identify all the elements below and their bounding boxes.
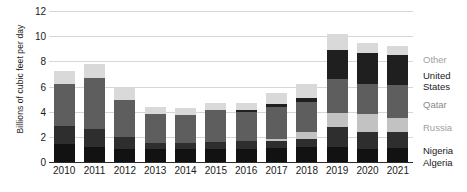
gridline-0 (49, 162, 413, 163)
bar-segment-russia[interactable] (327, 113, 348, 127)
bar-2010[interactable] (54, 71, 75, 162)
bar-segment-algeria[interactable] (266, 148, 287, 162)
bar-2020[interactable] (357, 43, 378, 163)
bar-2013[interactable] (145, 107, 166, 162)
legend-item-russia[interactable]: Russia (423, 123, 452, 134)
bar-segment-nigeria[interactable] (357, 132, 378, 150)
bar-segment-qatar[interactable] (84, 78, 105, 130)
bar-segment-algeria[interactable] (114, 149, 135, 162)
bar-segment-nigeria[interactable] (387, 132, 408, 148)
legend-item-algeria[interactable]: Algeria (423, 158, 453, 169)
bar-segment-algeria[interactable] (54, 144, 75, 162)
bar-segment-qatar[interactable] (357, 84, 378, 114)
legend-item-united-states[interactable]: United States (423, 71, 450, 92)
bar-segment-other[interactable] (205, 103, 226, 111)
bar-segment-qatar[interactable] (145, 114, 166, 143)
bar-segment-qatar[interactable] (54, 84, 75, 126)
stacked-bar-chart: Billions of cubic feet per day 024681012… (0, 0, 467, 192)
bar-segment-other[interactable] (54, 71, 75, 84)
bar-segment-other[interactable] (145, 107, 166, 115)
bar-segment-qatar[interactable] (175, 115, 196, 143)
bar-segment-algeria[interactable] (296, 147, 317, 162)
bar-segment-qatar[interactable] (114, 100, 135, 136)
bar-segment-other[interactable] (114, 88, 135, 101)
gridline-10 (49, 36, 413, 37)
y-tick-label-0: 0 (6, 157, 46, 168)
bar-segment-other[interactable] (296, 84, 317, 98)
bar-2021[interactable] (387, 46, 408, 162)
bar-2014[interactable] (175, 108, 196, 162)
bar-segment-united-states[interactable] (357, 53, 378, 84)
gridline-12 (49, 11, 413, 12)
bar-segment-nigeria[interactable] (266, 141, 287, 149)
x-tick-label-2021: 2021 (378, 165, 418, 176)
bar-segment-nigeria[interactable] (54, 126, 75, 145)
bar-segment-other[interactable] (236, 103, 257, 111)
bar-segment-nigeria[interactable] (327, 127, 348, 147)
bar-segment-qatar[interactable] (205, 110, 226, 141)
bar-segment-qatar[interactable] (236, 112, 257, 141)
bar-segment-other[interactable] (266, 93, 287, 104)
bar-segment-algeria[interactable] (387, 148, 408, 162)
bar-2019[interactable] (327, 34, 348, 162)
bar-segment-other[interactable] (387, 46, 408, 55)
bar-segment-algeria[interactable] (205, 149, 226, 162)
bar-segment-united-states[interactable] (327, 50, 348, 79)
bar-segment-united-states[interactable] (387, 55, 408, 85)
bar-segment-algeria[interactable] (175, 149, 196, 162)
bar-2011[interactable] (84, 64, 105, 162)
bar-segment-nigeria[interactable] (236, 141, 257, 150)
bar-segment-algeria[interactable] (145, 149, 166, 162)
bar-segment-qatar[interactable] (266, 107, 287, 140)
bar-segment-russia[interactable] (387, 118, 408, 132)
bar-segment-other[interactable] (327, 34, 348, 50)
bar-segment-nigeria[interactable] (114, 137, 135, 150)
legend-item-nigeria[interactable]: Nigeria (423, 146, 453, 157)
plot-area (49, 11, 413, 162)
legend-item-qatar[interactable]: Qatar (423, 100, 447, 111)
bar-segment-nigeria[interactable] (296, 139, 317, 147)
bar-segment-qatar[interactable] (327, 79, 348, 113)
bar-segment-qatar[interactable] (387, 85, 408, 118)
y-tick-label-6: 6 (6, 81, 46, 92)
bar-segment-algeria[interactable] (84, 147, 105, 162)
bar-segment-other[interactable] (175, 108, 196, 116)
bar-2016[interactable] (236, 103, 257, 162)
legend-item-other[interactable]: Other (423, 55, 447, 66)
bar-2012[interactable] (114, 88, 135, 162)
bar-segment-qatar[interactable] (296, 102, 317, 132)
bar-segment-russia[interactable] (357, 114, 378, 132)
y-tick-label-4: 4 (6, 106, 46, 117)
bar-segment-algeria[interactable] (327, 147, 348, 162)
y-tick-label-8: 8 (6, 56, 46, 67)
bar-segment-other[interactable] (357, 43, 378, 53)
bar-segment-algeria[interactable] (236, 149, 257, 162)
bar-2017[interactable] (266, 93, 287, 162)
bar-segment-algeria[interactable] (357, 149, 378, 162)
bar-segment-russia[interactable] (296, 132, 317, 140)
bar-2015[interactable] (205, 103, 226, 162)
bar-segment-nigeria[interactable] (84, 129, 105, 147)
bar-segment-other[interactable] (84, 64, 105, 78)
bar-2018[interactable] (296, 84, 317, 162)
bar-segment-nigeria[interactable] (205, 142, 226, 150)
y-tick-label-10: 10 (6, 31, 46, 42)
y-tick-label-12: 12 (6, 6, 46, 17)
y-tick-label-2: 2 (6, 131, 46, 142)
